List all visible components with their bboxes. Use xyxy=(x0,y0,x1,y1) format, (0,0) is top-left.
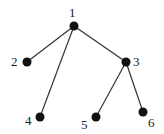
node-label-3: 3 xyxy=(133,54,140,69)
tree-diagram-svg: 123456 xyxy=(0,0,164,134)
node-5 xyxy=(92,113,101,122)
node-label-2: 2 xyxy=(11,54,18,69)
edge-3-6 xyxy=(126,62,143,112)
node-6 xyxy=(139,108,148,117)
edge-1-3 xyxy=(74,26,126,62)
edges xyxy=(27,26,143,117)
node-label-5: 5 xyxy=(81,117,88,132)
edge-3-5 xyxy=(96,62,126,117)
node-1 xyxy=(70,22,79,31)
node-4 xyxy=(36,113,45,122)
node-label-1: 1 xyxy=(69,5,76,20)
node-label-6: 6 xyxy=(148,115,155,130)
tree-diagram: 123456 xyxy=(0,0,164,134)
node-2 xyxy=(23,58,32,67)
node-3 xyxy=(122,58,131,67)
node-labels: 123456 xyxy=(11,5,155,132)
node-label-4: 4 xyxy=(25,113,32,128)
